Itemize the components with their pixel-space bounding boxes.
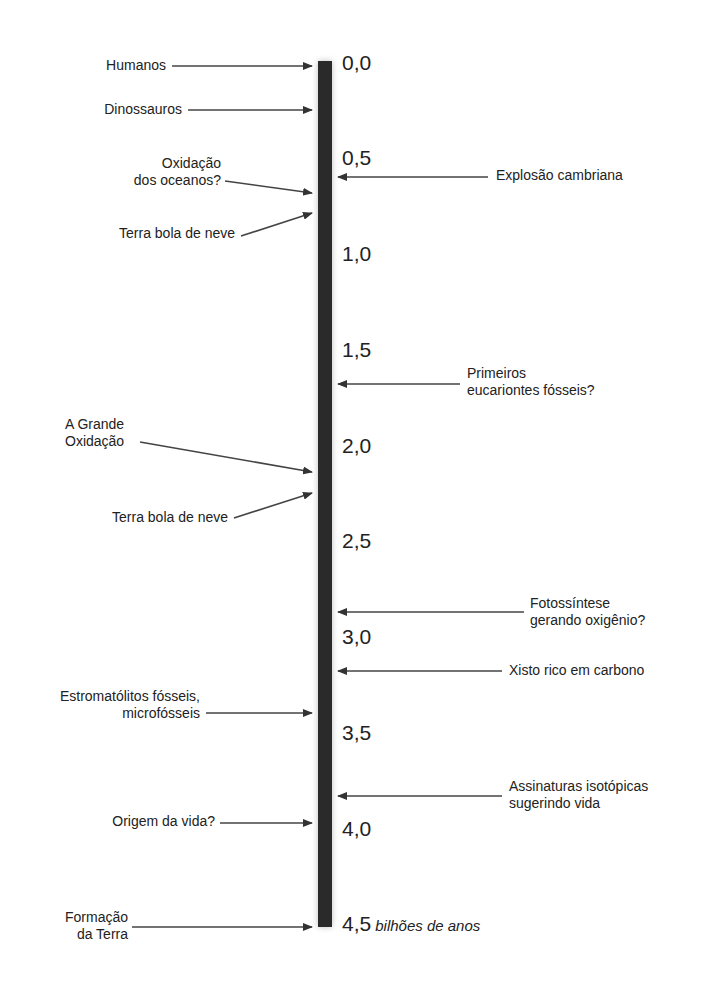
event-terra-bola-neve-1: Terra bola de neve xyxy=(119,225,235,242)
event-xisto: Xisto rico em carbono xyxy=(509,662,644,679)
event-line: Origem da vida? xyxy=(112,813,215,830)
event-line: da Terra xyxy=(65,926,128,943)
event-line: Fotossíntese xyxy=(530,595,645,612)
event-line: Humanos xyxy=(106,57,166,74)
event-line: dos oceanos? xyxy=(134,172,221,189)
event-assinaturas: Assinaturas isotópicas sugerindo vida xyxy=(509,778,648,812)
event-line: sugerindo vida xyxy=(509,795,648,812)
arrow-oxidacao-oceanos xyxy=(225,181,312,193)
event-dinossauros: Dinossauros xyxy=(104,101,182,118)
event-line: Terra bola de neve xyxy=(119,225,235,242)
event-eucariontes: Primeiros eucariontes fósseis? xyxy=(467,365,595,399)
event-line: Oxidação xyxy=(65,433,124,450)
arrows-layer xyxy=(0,0,711,996)
arrow-terra-bola-neve-2 xyxy=(234,493,312,518)
arrow-grande-oxidacao xyxy=(140,442,312,472)
arrow-terra-bola-neve-1 xyxy=(241,213,312,236)
event-formacao-terra: Formação da Terra xyxy=(65,909,128,943)
event-humanos: Humanos xyxy=(106,57,166,74)
event-origem-vida: Origem da vida? xyxy=(112,813,215,830)
timeline-diagram: 0,0 0,5 1,0 1,5 2,0 2,5 3,0 3,5 4,0 4,5b… xyxy=(0,0,711,996)
event-line: Formação xyxy=(65,909,128,926)
event-line: Explosão cambriana xyxy=(496,167,623,184)
event-line: Oxidação xyxy=(134,155,221,172)
event-line: Estromatólitos fósseis, xyxy=(60,688,200,705)
event-grande-oxidacao: A Grande Oxidação xyxy=(65,416,124,450)
event-line: gerando oxigênio? xyxy=(530,612,645,629)
event-line: Xisto rico em carbono xyxy=(509,662,644,679)
event-line: Terra bola de neve xyxy=(112,509,228,526)
event-terra-bola-neve-2: Terra bola de neve xyxy=(112,509,228,526)
event-line: Primeiros xyxy=(467,365,595,382)
event-line: Dinossauros xyxy=(104,101,182,118)
event-oxidacao-oceanos: Oxidação dos oceanos? xyxy=(134,155,221,189)
event-line: Assinaturas isotópicas xyxy=(509,778,648,795)
event-explosao-cambriana: Explosão cambriana xyxy=(496,167,623,184)
event-line: A Grande xyxy=(65,416,124,433)
event-line: eucariontes fósseis? xyxy=(467,382,595,399)
event-fotossintese: Fotossíntese gerando oxigênio? xyxy=(530,595,645,629)
event-estromatolitos: Estromatólitos fósseis, microfósseis xyxy=(60,688,200,722)
event-line: microfósseis xyxy=(60,705,200,722)
